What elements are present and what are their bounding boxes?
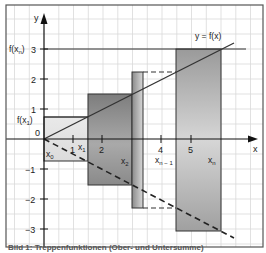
- y-tick-neg1: −1: [25, 165, 35, 175]
- x-tick-1: 1: [70, 145, 75, 155]
- x-tick-4: 4: [158, 145, 163, 155]
- x-axis-arrow-icon: [248, 136, 258, 143]
- x-tick-5: 5: [188, 145, 193, 155]
- y-tick-neg2: −2: [25, 195, 35, 205]
- y-tick-0: 0: [35, 128, 40, 138]
- x-point-n-1: xn − 1: [155, 155, 173, 166]
- y-tick-3: 3: [31, 45, 36, 55]
- step-rectangles: [44, 49, 221, 231]
- label-f-x1: f(x1): [17, 115, 33, 126]
- x-tick-2: 2: [99, 145, 104, 155]
- function-label: y = f(x): [195, 31, 221, 41]
- y-tick-1: 1: [31, 105, 36, 115]
- y-tick-neg3: −3: [25, 225, 35, 235]
- rect-xn1-xn: [176, 49, 221, 231]
- label-f-xn: f(xn): [9, 44, 25, 55]
- x-axis-label: x: [253, 144, 258, 154]
- riemann-diagram: y x y = f(x) 3 2 1 0 −1 −2 −3 f(xn) f(x1…: [0, 0, 266, 253]
- y-tick-2: 2: [31, 75, 36, 85]
- y-axis-label: y: [34, 13, 39, 23]
- y-axis-arrow-icon: [41, 13, 48, 24]
- figure-caption: Bild 1: Treppenfunktionen (Ober- und Unt…: [8, 243, 204, 252]
- dashed-continuations: [143, 72, 176, 208]
